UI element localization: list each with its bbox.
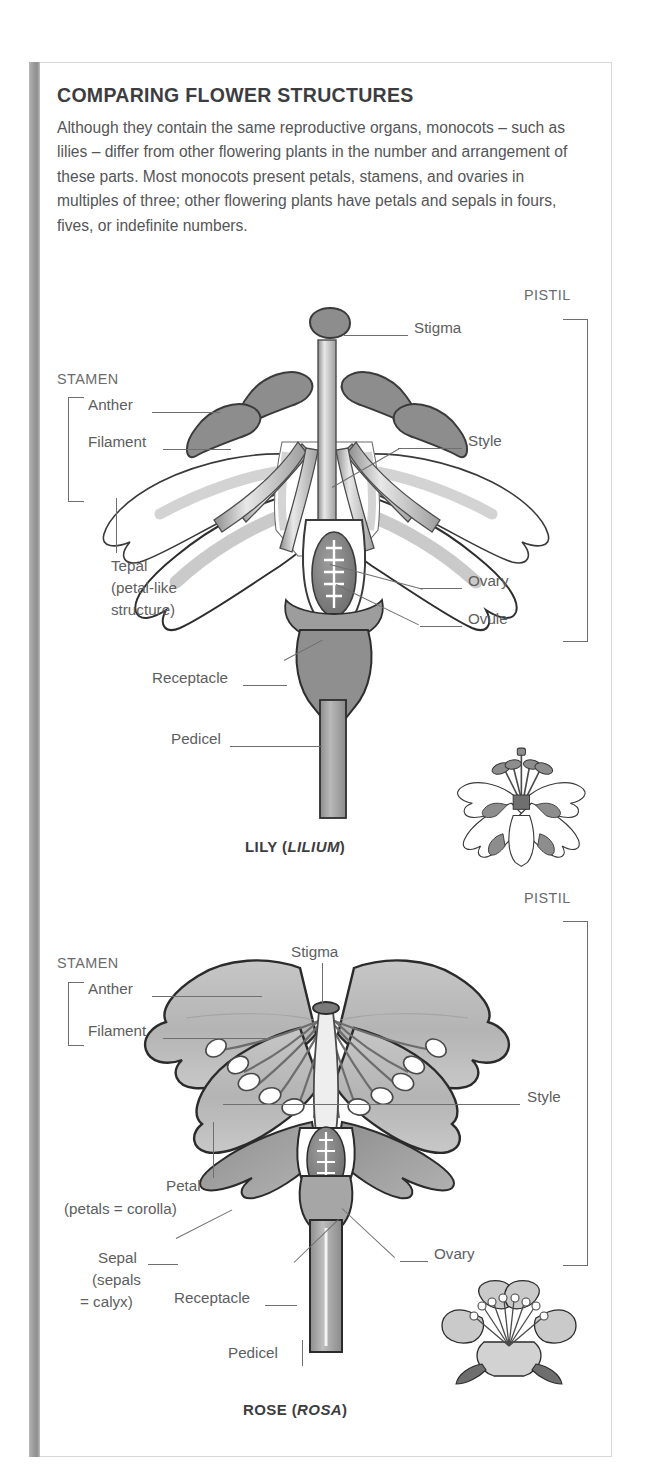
rose-label-sepal-line1: Sepal bbox=[98, 1248, 137, 1268]
rose-leader-ovary-h bbox=[400, 1261, 428, 1262]
lily-group-stamen: STAMEN bbox=[57, 371, 119, 387]
lily-leader-style-h bbox=[398, 448, 462, 449]
rose-stigma-shape bbox=[313, 1002, 339, 1014]
rose-pistil-bracket-top bbox=[563, 921, 588, 922]
rose-stamen-bracket-top bbox=[68, 982, 84, 983]
rose-leader-style bbox=[223, 1104, 520, 1105]
lily-label-tepal: Tepal (petal-like structure) bbox=[111, 555, 231, 621]
lily-label-receptacle: Receptacle bbox=[152, 668, 228, 688]
rose-group-pistil: PISTIL bbox=[524, 890, 571, 906]
lily-leader-tepal bbox=[116, 498, 117, 553]
lily-receptacle-pedicel bbox=[285, 600, 383, 818]
rose-leader-receptacle-h bbox=[265, 1305, 297, 1306]
rose-label-ovary: Ovary bbox=[434, 1244, 475, 1264]
rose-label-filament: Filament bbox=[88, 1021, 146, 1041]
rose-leader-anther bbox=[152, 996, 262, 997]
rose-leader-filament bbox=[163, 1038, 268, 1039]
lily-stamen-bracket-top bbox=[68, 397, 84, 398]
rose-receptacle-pedicel bbox=[300, 1176, 353, 1352]
lily-leader-stigma bbox=[344, 335, 408, 336]
rose-label-anther: Anther bbox=[88, 979, 133, 999]
stigma-shape bbox=[310, 308, 350, 338]
lily-label-filament: Filament bbox=[88, 432, 146, 452]
rose-stamen-bracket-bottom bbox=[68, 1045, 84, 1046]
lily-label-pedicel: Pedicel bbox=[171, 729, 221, 749]
rose-leader-pedicel bbox=[302, 1340, 303, 1366]
rose-leader-stigma bbox=[322, 963, 323, 1006]
rose-label-petal-line2: (petals = corolla) bbox=[64, 1199, 177, 1219]
lily-label-anther: Anther bbox=[88, 395, 133, 415]
lily-leader-pedicel bbox=[230, 746, 322, 747]
lily-label-ovule: Ovule bbox=[468, 609, 508, 629]
rose-leader-sepal-h bbox=[148, 1264, 178, 1265]
lily-stamen-bracket-spine bbox=[68, 397, 69, 502]
lily-pistil-bracket-spine bbox=[587, 319, 588, 642]
lily-group-pistil: PISTIL bbox=[524, 287, 571, 303]
lily-pistil-bracket-top bbox=[563, 319, 588, 320]
rose-label-petal-line1: Petal bbox=[166, 1176, 201, 1196]
rose-stamen-bracket-spine bbox=[68, 982, 69, 1046]
lily-stamen-bracket-bottom bbox=[68, 501, 84, 502]
rose-label-receptacle: Receptacle bbox=[174, 1288, 250, 1308]
rose-inset-flower bbox=[442, 1281, 576, 1384]
lily-pistil-bracket-bottom bbox=[563, 641, 588, 642]
lily-leader-ovary-h bbox=[420, 588, 462, 589]
rose-label-pedicel: Pedicel bbox=[228, 1343, 278, 1363]
rose-leader-petal bbox=[213, 1122, 214, 1178]
rose-label-stigma: Stigma bbox=[291, 942, 338, 962]
rose-label-sepal-line2: (sepals bbox=[92, 1270, 141, 1290]
lily-label-stigma: Stigma bbox=[414, 318, 461, 338]
rose-group-stamen: STAMEN bbox=[57, 955, 119, 971]
lily-label-ovary: Ovary bbox=[468, 571, 509, 591]
lily-leader-ovule-h bbox=[420, 626, 462, 627]
rose-label-style: Style bbox=[527, 1087, 561, 1107]
lily-leader-filament bbox=[163, 449, 231, 450]
lily-caption: LILY (LILIUM) bbox=[245, 838, 345, 855]
pedicel-shape bbox=[320, 700, 346, 818]
rose-label-sepal-line3: = calyx) bbox=[80, 1292, 133, 1312]
rose-pistil-bracket-spine bbox=[587, 921, 588, 1266]
rose-pistil-bracket-bottom bbox=[563, 1265, 588, 1266]
lily-inset-flower bbox=[458, 748, 586, 866]
rose-caption: ROSE (ROSA) bbox=[243, 1401, 347, 1418]
lily-leader-receptacle-h bbox=[243, 685, 287, 686]
lily-label-style: Style bbox=[468, 431, 502, 451]
lily-leader-anther bbox=[152, 412, 220, 413]
